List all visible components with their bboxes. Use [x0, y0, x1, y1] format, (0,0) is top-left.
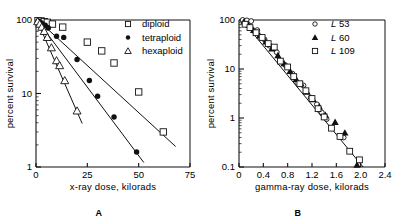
marker-open-square [321, 114, 327, 120]
marker-open-square [247, 25, 253, 31]
y-tick-label: 100 [16, 14, 32, 25]
y-tick-label: 1 [230, 112, 235, 123]
marker-open-square [259, 35, 265, 41]
x-tick-label: 2.4 [378, 169, 391, 180]
marker-open-triangle [125, 48, 132, 54]
panel-a-caption: A [0, 208, 198, 218]
marker-filled-triangle [312, 34, 319, 40]
marker-filled-circle [46, 25, 51, 30]
y-tick-label: 1 [27, 161, 32, 172]
marker-open-square [347, 148, 353, 154]
x-axis-label: gamma-ray dose, kilorads [255, 181, 369, 192]
marker-open-circle [249, 19, 254, 24]
marker-open-square [125, 21, 130, 26]
x-tick-label: 0 [33, 169, 38, 180]
x-tick-label: 75 [185, 169, 196, 180]
marker-open-square [337, 134, 343, 140]
legend-label-italic: L [331, 32, 336, 43]
legend-label: 109 [339, 45, 355, 56]
panel-a: 0255075100101x-ray dose, kiloradspercent… [0, 0, 198, 222]
legend-label: tetraploid [142, 32, 181, 43]
marker-open-square [111, 60, 117, 66]
panel-b-legend: L53L60L109 [312, 18, 355, 56]
x-tick-label: 1.6 [330, 169, 343, 180]
marker-open-square [291, 74, 297, 80]
panel-b-plot: 00.40.81.21.62.02.41001010.1gamma-ray do… [199, 0, 397, 200]
x-tick-label: 0.4 [257, 169, 270, 180]
marker-filled-triangle [331, 119, 338, 125]
y-axis-label: percent survival [4, 59, 15, 129]
x-tick-label: 50 [133, 169, 144, 180]
marker-open-square [271, 44, 277, 50]
marker-open-triangle [73, 107, 81, 114]
figure-container: 0255075100101x-ray dose, kiloradspercent… [0, 0, 397, 222]
marker-open-square [265, 41, 271, 47]
marker-open-square [312, 48, 317, 53]
marker-open-square [84, 39, 90, 45]
marker-open-square [99, 48, 105, 54]
x-axis-label: x-ray dose, kilorads [70, 181, 156, 192]
marker-open-circle [313, 22, 317, 26]
marker-open-square [357, 157, 363, 163]
marker-open-square [135, 89, 141, 95]
legend-label: diploid [142, 18, 169, 29]
marker-filled-circle [111, 114, 116, 119]
panel-b-axes: 00.40.81.21.62.02.41001010.1gamma-ray do… [205, 14, 392, 192]
marker-open-square [329, 125, 335, 131]
x-tick-label: 25 [82, 169, 93, 180]
marker-open-square [315, 106, 321, 112]
marker-filled-circle [134, 149, 139, 154]
marker-filled-circle [61, 35, 66, 40]
marker-filled-circle [126, 35, 130, 39]
panel-b-caption: B [199, 208, 397, 218]
marker-open-square [160, 129, 166, 135]
marker-open-square [309, 96, 315, 102]
y-tick-label: 10 [224, 63, 235, 74]
marker-filled-circle [87, 78, 92, 83]
y-axis-label: percent survival [205, 59, 216, 129]
legend-label-italic: L [331, 45, 336, 56]
x-tick-label: 2.0 [354, 169, 367, 180]
y-tick-label: 100 [219, 14, 235, 25]
legend-label: 60 [339, 32, 350, 43]
marker-filled-circle [54, 34, 59, 39]
panel-a-legend: diploidtetraploidhexaploid [125, 18, 183, 56]
marker-filled-circle [95, 93, 100, 98]
marker-open-square [277, 58, 283, 64]
x-tick-label: 1.2 [305, 169, 318, 180]
panel-a-plot: 0255075100101x-ray dose, kiloradspercent… [0, 0, 198, 200]
y-tick-label: 10 [21, 88, 32, 99]
x-tick-label: 0 [236, 169, 241, 180]
legend-label-italic: L [331, 18, 336, 29]
x-tick-label: 0.8 [281, 169, 294, 180]
marker-filled-circle [74, 57, 79, 62]
marker-open-square [285, 64, 291, 70]
marker-open-square [59, 24, 65, 30]
legend-label: 53 [339, 18, 350, 29]
marker-open-square [253, 30, 259, 36]
marker-open-square [297, 81, 303, 87]
legend-label: hexaploid [142, 45, 183, 56]
y-tick-label: 0.1 [222, 161, 235, 172]
marker-open-square [303, 88, 309, 94]
panel-b: 00.40.81.21.62.02.41001010.1gamma-ray do… [199, 0, 397, 222]
